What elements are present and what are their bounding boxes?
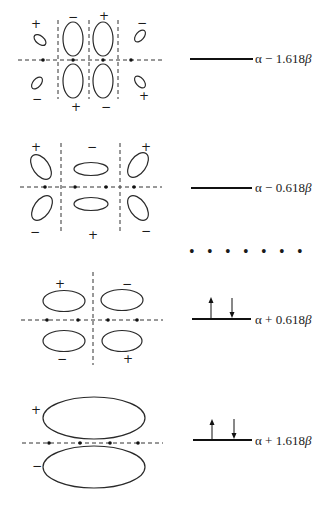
carbon-atom [106,318,110,322]
carbon-atom [104,185,108,189]
energy-label-psi3: α − 0.618β [255,181,311,195]
alpha-symbol: α [255,180,262,195]
carbon-atom [101,58,105,62]
p-lobe [43,331,85,352]
energy-label-psi2: α + 0.618β [255,313,311,327]
phase-sign: + [141,141,151,153]
phase-sign: + [31,141,41,153]
arrow-head-up-icon [209,297,214,303]
phase-sign: + [55,278,65,290]
phase-sign: − [122,278,132,290]
carbon-atom [71,58,75,62]
carbon-atom [41,58,45,62]
beta-symbol: β [305,51,311,66]
phase-sign: − [57,353,67,365]
beta-symbol: β [305,180,311,195]
orbital-psi3 [20,143,162,232]
p-lobe [74,163,108,176]
phase-sign: + [123,353,133,365]
phase-sign: − [32,93,42,105]
carbon-atom [108,441,112,445]
operator: − [265,180,272,195]
coefficient: 1.618 [276,51,305,66]
alpha-symbol: α [255,51,262,66]
p-lobe [132,74,147,90]
p-lobe [63,64,83,98]
carbon-atom [135,318,139,322]
ellipsis-separator: • • • • • • • [189,247,307,257]
phase-sign: − [141,225,151,237]
arrow-head-down-icon [232,433,237,439]
p-lobe [132,28,147,44]
phase-sign: − [32,460,42,472]
carbon-atom [129,58,133,62]
p-lobe [74,198,108,211]
coefficient: 0.618 [276,180,305,195]
operator: + [265,433,272,448]
alpha-symbol: α [255,433,262,448]
p-lobe [27,192,56,224]
p-lobe [29,75,44,91]
phase-sign: + [71,101,81,113]
p-lobe [43,446,145,488]
phase-sign: + [88,229,98,241]
p-lobe [32,32,48,47]
operator: − [265,51,272,66]
arrow-head-down-icon [230,312,235,318]
phase-sign: − [30,226,40,238]
phase-sign: − [87,141,97,153]
energy-label-psi1: α + 1.618β [255,434,311,448]
carbon-atom [76,318,80,322]
carbon-atom [47,441,51,445]
p-lobe [43,291,85,312]
phase-sign: − [101,101,111,113]
energy-label-psi4: α − 1.618β [255,52,311,66]
p-lobe [102,331,142,352]
beta-symbol: β [305,312,311,327]
carbon-atom [45,318,49,322]
phase-sign: + [31,404,41,416]
p-lobe [93,64,113,98]
p-lobe [101,290,143,311]
orbital-psi1 [22,397,163,488]
carbon-atom [73,185,77,189]
energy-level-psi1-group [193,419,252,440]
phase-sign: + [139,90,149,102]
phase-sign: − [137,17,147,29]
energy-level-psi2-group [192,297,251,319]
phase-sign: − [68,11,78,23]
beta-symbol: β [305,433,311,448]
carbon-atom [136,441,140,445]
p-lobe [26,151,55,183]
p-lobe [43,397,145,439]
phase-sign: + [31,18,41,30]
phase-sign: + [99,10,109,22]
carbon-atom [43,185,47,189]
coefficient: 1.618 [276,433,305,448]
p-lobe [93,22,113,56]
p-lobe [123,192,152,224]
carbon-atom [78,441,82,445]
p-lobe [63,22,83,56]
orbital-psi4 [18,20,162,99]
operator: + [265,312,272,327]
carbon-atom [132,185,136,189]
coefficient: 0.618 [276,312,305,327]
alpha-symbol: α [255,312,262,327]
orbital-psi2 [21,272,163,365]
arrow-head-up-icon [210,419,215,425]
